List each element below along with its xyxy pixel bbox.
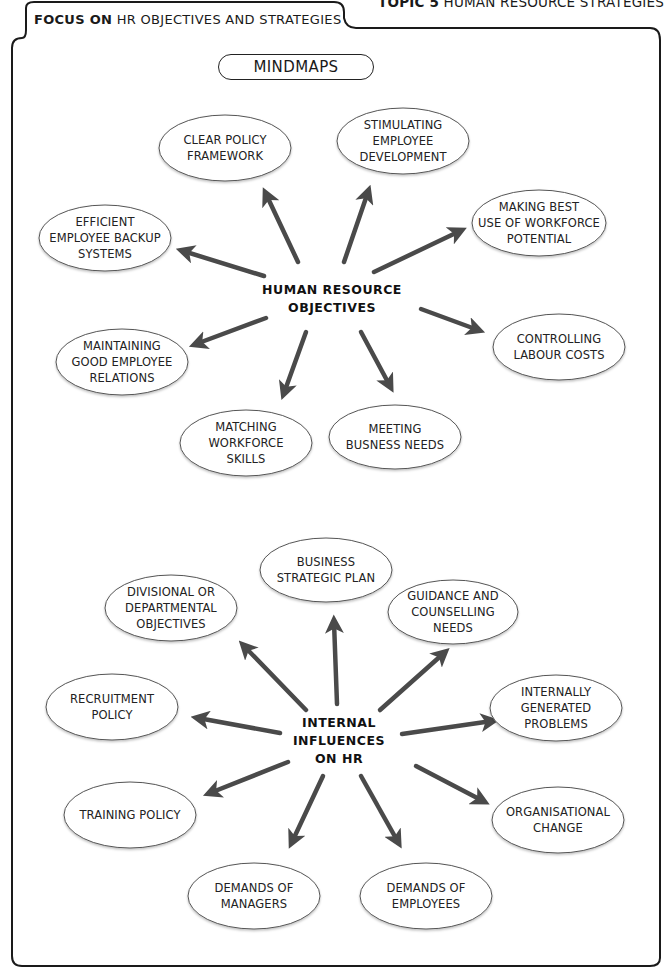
node-recruitment-policy: RECRUITMENT POLICY: [46, 674, 178, 740]
arrow-to-matching-skills: [284, 332, 306, 393]
node-divisional-departmental-objectives: DIVISIONAL OR DEPARTMENTAL OBJECTIVES: [105, 575, 237, 641]
node-stimulating-employee-development: STIMULATING EMPLOYEE DEVELOPMENT: [337, 108, 469, 174]
hub-internal-influences-on-hr: INTERNAL INFLUENCES ON HR: [269, 714, 409, 768]
arrow-to-organisational-change: [416, 766, 483, 801]
arrow-to-divisional: [244, 646, 306, 710]
hub-human-resource-objectives: HUMAN RESOURCE OBJECTIVES: [232, 281, 432, 317]
node-internally-generated-problems: INTERNALLY GENERATED PROBLEMS: [490, 675, 622, 741]
section-title: HR OBJECTIVES AND STRATEGIES: [112, 12, 341, 27]
node-clear-policy-framework: CLEAR POLICY FRAMEWORK: [159, 115, 291, 181]
mindmaps-title: MINDMAPS: [218, 54, 374, 80]
arrow-to-stimulating: [344, 192, 368, 262]
arrow-to-demands-managers: [292, 776, 323, 842]
focus-on-label: FOCUS ON: [34, 12, 112, 27]
arrow-to-internally-generated: [402, 721, 492, 734]
node-controlling-labour-costs: CONTROLLING LABOUR COSTS: [493, 314, 625, 380]
arrow-to-demands-employees: [361, 776, 398, 842]
node-maintaining-employee-relations: MAINTAINING GOOD EMPLOYEE RELATIONS: [56, 329, 188, 395]
node-demands-of-employees: DEMANDS OF EMPLOYEES: [360, 863, 492, 929]
arrow-to-maintaining-relations: [196, 318, 266, 344]
node-training-policy: TRAINING POLICY: [64, 782, 196, 848]
arrow-to-efficient-backup: [183, 251, 264, 276]
arrow-to-strategic-plan: [334, 622, 337, 704]
node-demands-of-managers: DEMANDS OF MANAGERS: [188, 863, 320, 929]
node-organisational-change: ORGANISATIONAL CHANGE: [492, 787, 624, 853]
node-efficient-employee-backup: EFFICIENT EMPLOYEE BACKUP SYSTEMS: [39, 205, 171, 271]
node-making-best-use-of-workforce: MAKING BEST USE OF WORKFORCE POTENTIAL: [472, 190, 606, 256]
node-matching-workforce-skills: MATCHING WORKFORCE SKILLS: [180, 410, 312, 476]
node-guidance-counselling-needs: GUIDANCE AND COUNSELLING NEEDS: [388, 580, 518, 644]
node-meeting-business-needs: MEETING BUSNESS NEEDS: [329, 405, 461, 469]
arrow-to-guidance: [380, 653, 444, 710]
arrow-to-recruitment: [198, 718, 280, 733]
node-business-strategic-plan: BUSINESS STRATEGIC PLAN: [260, 538, 392, 602]
section-tab-label: FOCUS ON HR OBJECTIVES AND STRATEGIES: [34, 12, 341, 27]
arrow-to-clear-policy: [266, 194, 298, 262]
arrow-to-meeting-needs: [361, 332, 390, 386]
arrow-to-making-best-use: [374, 231, 460, 272]
